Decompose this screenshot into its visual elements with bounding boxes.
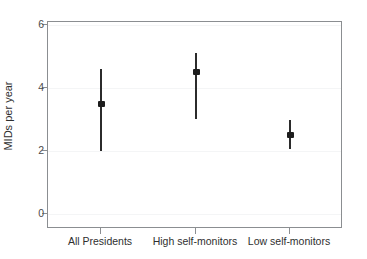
gridline [48, 214, 341, 215]
x-tick-label-all-presidents: All Presidents [68, 236, 132, 248]
error-bar-whisker [195, 53, 197, 119]
chart-page: MIDs per year 0246 All PresidentsHigh se… [0, 0, 367, 259]
x-tick-mark [289, 228, 290, 234]
y-axis-title: MIDs per year [0, 13, 16, 220]
gridline [48, 151, 341, 152]
error-bar-whisker [100, 69, 102, 151]
x-tick-label-high-self-monitors: High self-monitors [153, 236, 238, 248]
y-tick-label: 6 [38, 19, 44, 30]
x-tick-mark [195, 228, 196, 234]
data-point-marker [287, 132, 294, 138]
y-tick-label: 4 [38, 82, 44, 93]
gridline [48, 25, 341, 26]
plot-frame [47, 21, 342, 228]
data-point-marker [193, 69, 200, 75]
x-tick-label-low-self-monitors: Low self-monitors [248, 236, 330, 248]
data-point-marker [98, 101, 105, 107]
x-tick-mark [100, 228, 101, 234]
plot-area [48, 22, 341, 227]
y-tick-label: 2 [38, 145, 44, 156]
y-tick-label: 0 [38, 208, 44, 219]
